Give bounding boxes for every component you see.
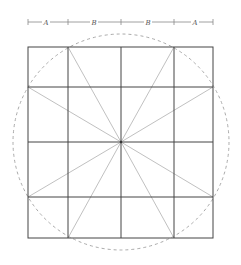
diagram-canvas: A B B A	[0, 0, 241, 265]
dimension-line: A B B A	[28, 18, 213, 27]
dimension-label-a-left: A	[42, 19, 48, 27]
dimension-label-b-left: B	[90, 19, 96, 27]
center-point	[120, 141, 122, 143]
dimension-label-b-right: B	[144, 19, 150, 27]
dimension-label-a-right: A	[191, 19, 197, 27]
proportion-diagram: A B B A	[0, 0, 241, 265]
